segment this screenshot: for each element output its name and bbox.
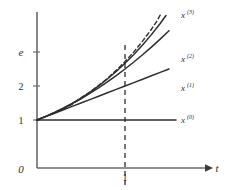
- curve-label-x3-superscript: (3): [187, 9, 194, 16]
- curve-label-x0-superscript: (0): [187, 114, 194, 121]
- y-tick-label-2: 2: [19, 81, 24, 92]
- y-tick-label-1: 1: [19, 115, 24, 126]
- picard-iteration-figure: e 2 1 0 t 1 x (3) x (2) x: [0, 0, 225, 190]
- x-axis-arrowhead: [205, 164, 213, 172]
- curve-x3: [37, 16, 166, 121]
- figure-canvas: e 2 1 0 t 1 x (3) x (2) x: [0, 0, 225, 190]
- curve-label-x1-superscript: (1): [187, 82, 194, 89]
- curves-group: [37, 16, 176, 121]
- x-tick-label-1: 1: [123, 172, 128, 183]
- curve-label-x1-base: x: [180, 83, 185, 93]
- curve-labels-group: x (3) x (2) x (1) x (0): [180, 9, 194, 125]
- x-axis-label: t: [215, 162, 219, 174]
- curve-x2: [37, 31, 169, 120]
- curve-exact-exponential: [37, 15, 161, 121]
- y-tick-label-e: e: [19, 46, 24, 58]
- curve-label-x3-base: x: [180, 10, 185, 20]
- origin-label: 0: [18, 163, 24, 175]
- curve-label-x0-base: x: [180, 115, 185, 125]
- curve-label-x2-base: x: [180, 54, 185, 64]
- curve-label-x2-superscript: (2): [187, 53, 194, 60]
